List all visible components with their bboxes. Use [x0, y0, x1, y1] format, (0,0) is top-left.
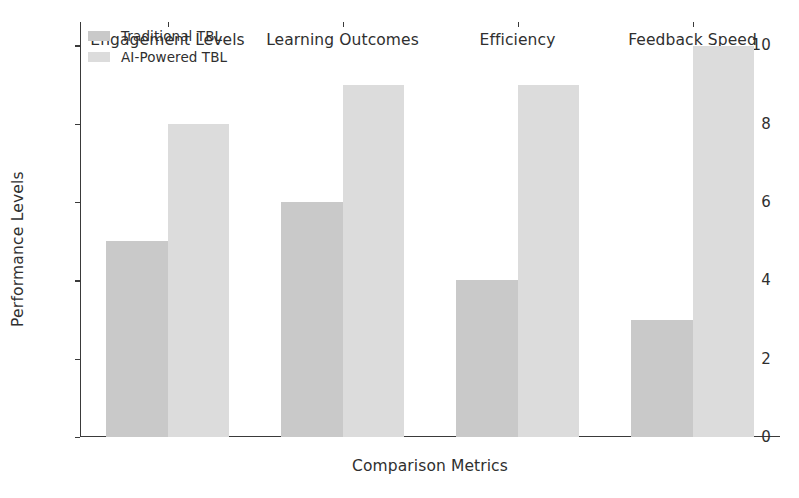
y-axis-label: Performance Levels: [9, 171, 27, 327]
legend-swatch-icon: [88, 52, 110, 62]
y-tick-label: 6: [761, 193, 771, 211]
bar: [693, 46, 754, 438]
bar-chart-figure: Performance Levels Comparison Metrics 02…: [0, 0, 799, 498]
bar: [456, 280, 517, 437]
y-tick-mark: [75, 202, 80, 203]
bar: [343, 85, 404, 437]
plot-area: 0246810 Engagement LevelsLearning Outcom…: [80, 22, 780, 437]
x-tick-mark: [343, 22, 344, 27]
y-tick-mark: [75, 280, 80, 281]
x-tick-label: Efficiency: [480, 31, 556, 49]
y-tick-label: 4: [761, 271, 771, 289]
x-tick-mark: [168, 22, 169, 27]
x-tick-label: Learning Outcomes: [266, 31, 419, 49]
y-tick-mark: [75, 437, 80, 438]
y-tick-label: 2: [761, 350, 771, 368]
bar: [168, 124, 229, 437]
y-tick-label: 8: [761, 115, 771, 133]
bar: [281, 202, 342, 437]
bar: [631, 320, 692, 437]
legend-label: Traditional TBL: [121, 28, 222, 44]
chart-legend: Traditional TBLAI-Powered TBL: [88, 28, 227, 65]
y-tick-label: 0: [761, 428, 771, 446]
y-tick-mark: [75, 359, 80, 360]
x-axis-label: Comparison Metrics: [352, 457, 508, 475]
x-tick-mark: [518, 22, 519, 27]
legend-swatch-icon: [88, 31, 110, 41]
legend-item[interactable]: Traditional TBL: [88, 28, 227, 44]
bar: [518, 85, 579, 437]
y-tick-mark: [75, 124, 80, 125]
legend-label: AI-Powered TBL: [121, 49, 227, 65]
bar: [106, 241, 167, 437]
legend-item[interactable]: AI-Powered TBL: [88, 49, 227, 65]
x-tick-mark: [693, 22, 694, 27]
y-tick-mark: [75, 45, 80, 46]
